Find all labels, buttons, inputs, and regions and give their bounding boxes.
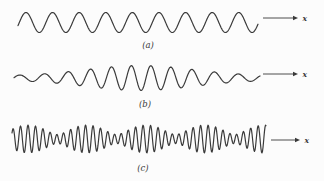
wave-b-caption: (b) xyxy=(139,99,151,109)
waveform-diagram: x (a) x (b) x (c) xyxy=(0,0,324,181)
wave-b-arrowhead-icon xyxy=(293,72,298,76)
wave-b-curve xyxy=(14,66,260,91)
wave-a-row: x (a) xyxy=(18,13,308,51)
wave-c-curve xyxy=(12,125,266,153)
wave-a-curve xyxy=(18,13,258,33)
wave-b-axis-label: x xyxy=(302,70,308,79)
wave-c-arrowhead-icon xyxy=(295,138,300,142)
wave-a-caption: (a) xyxy=(142,40,154,50)
wave-b-row: x (b) xyxy=(14,66,308,109)
wave-c-row: x (c) xyxy=(12,125,310,173)
wave-a-axis-label: x xyxy=(302,14,308,23)
wave-c-caption: (c) xyxy=(137,163,148,173)
wave-a-arrowhead-icon xyxy=(293,16,298,20)
wave-c-axis-label: x xyxy=(304,136,310,145)
